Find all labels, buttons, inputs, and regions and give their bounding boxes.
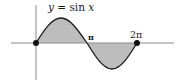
chart-title: y = sin x	[48, 2, 94, 13]
title-arg: x	[88, 1, 94, 13]
shaded-area-negative	[87, 43, 137, 69]
title-fn: sin	[69, 1, 85, 13]
two-pi-point	[134, 40, 140, 46]
origin-point	[33, 40, 39, 46]
title-var: y	[48, 1, 54, 13]
x-tick-2pi: 2π	[130, 30, 142, 40]
x-tick-pi: π	[88, 33, 94, 41]
title-eq: =	[57, 1, 66, 13]
